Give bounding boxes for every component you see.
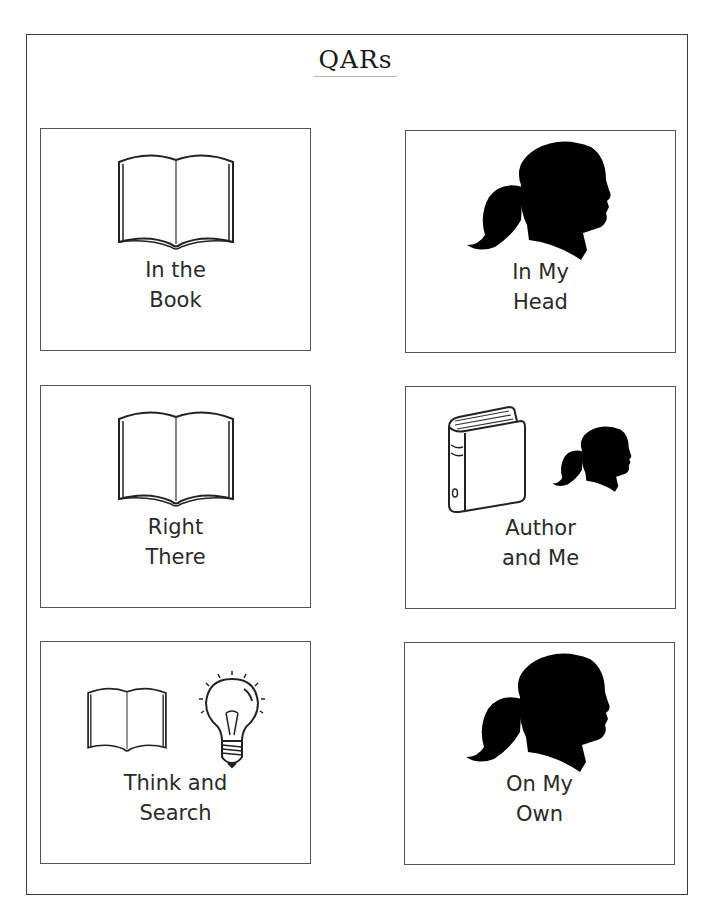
label-line-1: Author xyxy=(406,513,675,543)
label-line-1: On My xyxy=(405,769,674,799)
closed-book-icon xyxy=(445,405,529,515)
card-label: Right There xyxy=(41,512,310,572)
label-line-1: In the xyxy=(41,255,310,285)
card-on-my-own: On My Own xyxy=(404,642,675,865)
head-silhouette-icon xyxy=(461,135,621,270)
head-silhouette-icon xyxy=(460,647,620,782)
label-line-2: Head xyxy=(406,287,675,317)
label-line-1: Think and xyxy=(41,768,310,798)
card-label: Think and Search xyxy=(41,768,310,828)
open-book-icon xyxy=(113,146,239,254)
card-label: Author and Me xyxy=(406,513,675,573)
page-title: QARs xyxy=(0,45,711,77)
card-in-the-book: In the Book xyxy=(40,128,311,351)
card-in-my-head: In My Head xyxy=(405,130,676,353)
label-line-2: Book xyxy=(41,285,310,315)
label-line-2: Own xyxy=(405,799,674,829)
card-right-there: Right There xyxy=(40,385,311,608)
card-label: On My Own xyxy=(405,769,674,829)
open-book-icon xyxy=(113,403,239,511)
page-title-text: QARs xyxy=(314,45,396,77)
card-author-and-me: Author and Me xyxy=(405,386,676,609)
label-line-2: There xyxy=(41,542,310,572)
label-line-1: In My xyxy=(406,257,675,287)
label-line-2: and Me xyxy=(406,543,675,573)
head-silhouette-icon xyxy=(549,422,637,498)
label-line-2: Search xyxy=(41,798,310,828)
card-label: In My Head xyxy=(406,257,675,317)
label-line-1: Right xyxy=(41,512,310,542)
open-book-icon xyxy=(84,682,170,756)
light-bulb-icon xyxy=(196,669,268,769)
card-label: In the Book xyxy=(41,255,310,315)
card-think-and-search: Think and Search xyxy=(40,641,311,864)
